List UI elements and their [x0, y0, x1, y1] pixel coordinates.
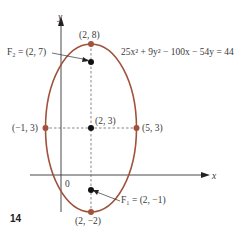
- focus-lower-label: F₁ = (2, −1): [121, 195, 166, 206]
- top-vertex-label: (2, 8): [79, 30, 100, 41]
- top-vertex-dot: [88, 41, 94, 47]
- ellipse-diagram: y x 0 (2, 8) (2, −2) (−1, 3) (5, 3) (2, …: [0, 0, 246, 227]
- y-axis: [58, 16, 64, 212]
- x-axis-arrow-icon: [201, 172, 210, 178]
- focus-upper-dot: [88, 59, 94, 65]
- bottom-vertex-dot: [88, 209, 94, 215]
- origin-label: 0: [65, 179, 70, 189]
- center-label: (2, 3): [95, 116, 116, 127]
- ellipse-equation: 25x² + 9y² − 100x − 54y = 44: [121, 47, 234, 57]
- focus-upper-label: F₂ = (2, 7): [7, 47, 46, 58]
- right-vertex-label: (5, 3): [142, 123, 163, 134]
- focus-upper-arrow-icon: [82, 57, 89, 62]
- center-dot: [88, 125, 94, 131]
- x-axis-label: x: [211, 171, 217, 181]
- left-vertex-label: (−1, 3): [12, 123, 38, 134]
- figure-number: 14: [10, 213, 21, 224]
- y-axis-label: y: [57, 12, 63, 22]
- focus-lower-dot: [88, 187, 94, 193]
- x-axis: [30, 172, 210, 178]
- bottom-vertex-label: (2, −2): [75, 216, 101, 227]
- left-vertex-dot: [43, 125, 49, 131]
- right-vertex-dot: [134, 125, 140, 131]
